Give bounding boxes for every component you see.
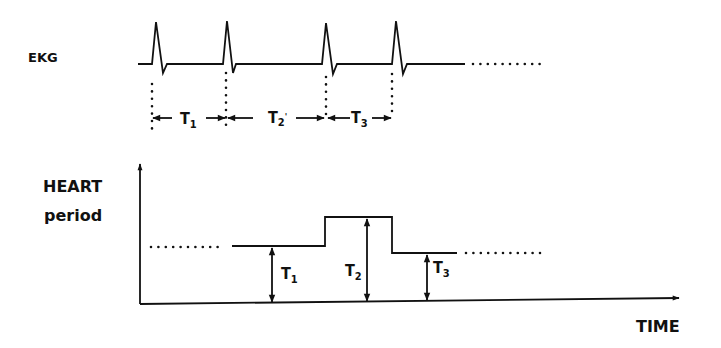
x-axis-label: TIME bbox=[636, 317, 680, 336]
ekg-trace bbox=[138, 21, 545, 74]
axes bbox=[140, 164, 679, 304]
period-level-arrows: T1 T2 T3 bbox=[272, 219, 450, 302]
y-axis-label-line1: HEART bbox=[43, 177, 102, 196]
ekg-label: EKG bbox=[28, 50, 58, 65]
interval-label-t1: T1 bbox=[180, 109, 197, 131]
diagram-ekg-heart-period: EKG T1 T2' T3 HEART period TIME bbox=[0, 0, 721, 348]
period-step-line bbox=[232, 217, 457, 253]
level-label-t2: T2 bbox=[345, 261, 362, 283]
x-axis bbox=[140, 298, 679, 304]
y-axis-label-line2: period bbox=[44, 206, 102, 225]
level-label-t3: T3 bbox=[433, 258, 450, 280]
ekg-interval-arrows: T1 T2' T3 bbox=[153, 108, 391, 131]
heart-period-step-trace bbox=[151, 217, 547, 253]
level-label-t1: T1 bbox=[281, 264, 298, 286]
interval-label-t3: T3 bbox=[351, 108, 368, 130]
interval-label-t2: T2' bbox=[268, 108, 287, 129]
